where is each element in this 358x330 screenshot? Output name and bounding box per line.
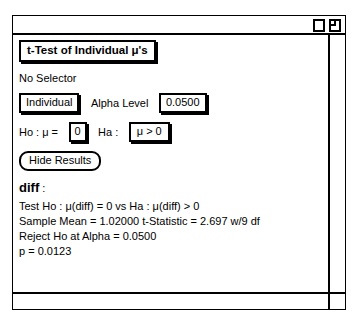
zoom-box-icon[interactable] <box>313 19 325 32</box>
title-button-row: t-Test of Individual μ's <box>19 40 326 62</box>
application-window: t-Test of Individual μ's No Selector Ind… <box>12 15 346 310</box>
hide-results-row: Hide Results <box>19 151 326 171</box>
scrollbar-corner <box>329 293 345 309</box>
results-variable-name: diff <box>19 180 39 195</box>
results-variable-heading: diff : <box>19 180 326 195</box>
ttest-title-button[interactable]: t-Test of Individual μ's <box>19 40 156 62</box>
alt-hypothesis-label: Ha : <box>98 126 118 139</box>
hide-results-button[interactable]: Hide Results <box>19 151 101 171</box>
individual-mode-button[interactable]: Individual <box>19 93 79 113</box>
null-hypothesis-value-input[interactable]: 0 <box>69 122 87 142</box>
alpha-level-label: Alpha Level <box>91 97 149 110</box>
results-line: Sample Mean = 1.02000 t-Statistic = 2.69… <box>19 214 326 229</box>
results-block: diff : Test Ho : μ(diff) = 0 vs Ha : μ(d… <box>19 180 326 259</box>
vertical-scrollbar[interactable] <box>329 35 345 293</box>
results-line: Reject Ho at Alpha = 0.0500 <box>19 229 326 244</box>
null-hypothesis-label: Ho : μ = <box>19 126 58 139</box>
horizontal-scrollbar[interactable] <box>13 293 329 309</box>
content-area: t-Test of Individual μ's No Selector Ind… <box>13 35 329 293</box>
window-titlebar[interactable] <box>13 16 345 35</box>
window-body: t-Test of Individual μ's No Selector Ind… <box>13 35 345 309</box>
results-line: Test Ho : μ(diff) = 0 vs Ha : μ(diff) > … <box>19 199 326 214</box>
alpha-row: Individual Alpha Level 0.0500 <box>19 93 326 113</box>
grow-box-icon[interactable] <box>329 19 341 32</box>
hypothesis-row: Ho : μ = 0 Ha : μ > 0 <box>19 122 326 142</box>
results-line: p = 0.0123 <box>19 244 326 259</box>
selector-label: No Selector <box>19 72 76 85</box>
alt-hypothesis-select[interactable]: μ > 0 <box>129 122 170 142</box>
results-variable-colon: : <box>39 182 45 194</box>
alpha-level-input[interactable]: 0.0500 <box>159 93 207 113</box>
